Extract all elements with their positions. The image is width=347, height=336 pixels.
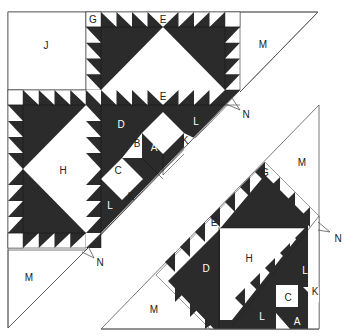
- label-n-right: N: [334, 233, 341, 244]
- label-h-right-piece: H: [245, 253, 252, 264]
- label-l-mid-lower: L: [107, 200, 113, 211]
- label-l-mid-upper: L: [193, 116, 199, 127]
- label-e-mid: E: [160, 91, 167, 102]
- block-left: [8, 90, 86, 248]
- label-n-lower: N: [96, 257, 103, 268]
- label-k-mid-lower: K: [128, 191, 135, 202]
- label-g-right-piece: G: [261, 167, 269, 178]
- label-l-right-lower: L: [259, 311, 265, 322]
- label-a-mid: A: [151, 142, 158, 153]
- label-n-upper: N: [242, 109, 249, 120]
- patch-j: [8, 12, 86, 90]
- patch-m-top-right: [240, 12, 318, 92]
- label-d-right-piece: D: [202, 263, 209, 274]
- label-l-right-upper: L: [302, 265, 308, 276]
- label-m-top-right: M: [259, 39, 267, 50]
- patch-m-bottom-left: [8, 250, 86, 328]
- label-m-right-bottom: M: [150, 304, 158, 315]
- label-m-bottom-left: M: [25, 272, 33, 283]
- label-h-left: H: [59, 165, 66, 176]
- label-k-mid-upper: K: [182, 135, 189, 146]
- label-m-right-piece: M: [298, 157, 306, 168]
- label-g-top: G: [89, 14, 97, 25]
- label-c-right: C: [284, 292, 291, 303]
- quilt-diagram: J G E M E D B A L K C K L H N M N M G E …: [0, 0, 347, 336]
- label-e-right-piece: E: [211, 217, 218, 228]
- label-k-right: K: [312, 286, 319, 297]
- pointer-n-right: [318, 222, 330, 232]
- label-e-top: E: [160, 14, 167, 25]
- label-b-mid: B: [134, 138, 141, 149]
- label-d-mid: D: [117, 119, 124, 130]
- label-a-right: A: [294, 316, 301, 327]
- label-c-mid: C: [114, 165, 121, 176]
- label-j: J: [44, 40, 49, 51]
